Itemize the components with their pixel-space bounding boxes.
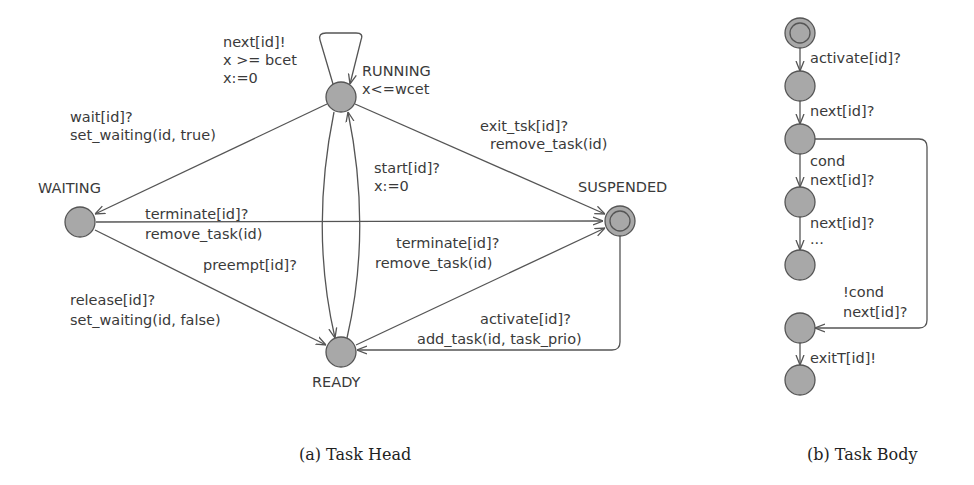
label-activate-sync: activate[id]? <box>480 310 571 328</box>
state-waiting <box>65 207 95 237</box>
label-terminate-ready-sync: terminate[id]? <box>396 234 499 252</box>
label-preempt-sync: preempt[id]? <box>203 256 297 274</box>
label-release-update: set_waiting(id, false) <box>70 311 221 329</box>
label-activate-update: add_task(id, task_prio) <box>417 330 582 348</box>
label-wait-update: set_waiting(id, true) <box>70 126 216 144</box>
caption-task-head: (a) Task Head <box>299 445 411 464</box>
waiting-name: WAITING <box>38 180 101 196</box>
body-label-ellipsis: ... <box>810 230 824 248</box>
label-terminate-ready-update: remove_task(id) <box>375 254 492 272</box>
edge-running-to-ready <box>322 112 335 338</box>
body-state-7 <box>785 365 815 395</box>
state-running <box>326 82 356 112</box>
label-release-sync: release[id]? <box>70 291 155 309</box>
caption-task-body: (b) Task Body <box>807 445 917 464</box>
body-label-activate: activate[id]? <box>810 49 901 67</box>
state-suspended-inner <box>610 211 630 231</box>
label-running-self-update: x:=0 <box>223 69 258 87</box>
label-terminate-waiting-sync: terminate[id]? <box>145 205 248 223</box>
body-label-next-1: next[id]? <box>810 102 874 120</box>
body-label-exit: exitT[id]! <box>810 349 876 367</box>
label-start-update: x:=0 <box>374 177 409 195</box>
label-exit-update: remove_task(id) <box>490 135 607 153</box>
label-start-sync: start[id]? <box>374 159 440 177</box>
label-terminate-waiting-update: remove_task(id) <box>145 225 262 243</box>
body-state-5 <box>785 250 815 280</box>
suspended-name: SUSPENDED <box>578 179 667 195</box>
running-invariant: x<=wcet <box>362 81 429 97</box>
edge-running-self <box>320 33 362 84</box>
ready-name: READY <box>312 374 360 390</box>
label-wait-sync: wait[id]? <box>70 108 133 126</box>
body-label-notcond: !cond <box>843 283 884 301</box>
body-label-next-2: next[id]? <box>810 171 874 189</box>
body-state-6 <box>785 313 815 343</box>
body-state-2 <box>785 71 815 101</box>
body-state-initial-inner <box>790 23 810 43</box>
body-state-4 <box>785 187 815 217</box>
body-label-next-4: next[id]? <box>843 303 907 321</box>
label-running-self-sync: next[id]! <box>223 33 285 51</box>
label-exit-sync: exit_tsk[id]? <box>480 117 568 135</box>
label-running-self-guard: x >= bcet <box>223 51 297 69</box>
running-name: RUNNING <box>362 63 431 79</box>
body-label-cond: cond <box>810 152 845 170</box>
state-ready <box>326 337 356 367</box>
body-state-3 <box>785 124 815 154</box>
edge-ready-to-running <box>347 112 360 338</box>
